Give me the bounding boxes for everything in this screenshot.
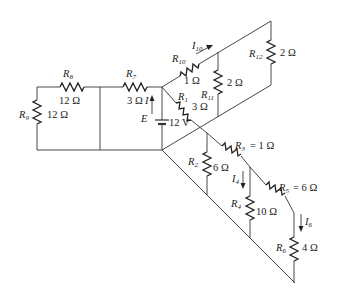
- label-r2-name: R2: [187, 156, 198, 169]
- label-source-value: 12 V: [169, 117, 190, 128]
- label-current-i: I: [144, 95, 149, 106]
- label-r8-name: R8: [62, 68, 73, 81]
- label-i4: I4: [231, 173, 240, 186]
- label-r12-value: 2 Ω: [280, 47, 296, 58]
- upper-right-network: [162, 21, 275, 150]
- label-r5-value: = 6 Ω: [293, 182, 317, 193]
- resistor-r11: [214, 70, 222, 94]
- label-r9-value: 12 Ω: [47, 109, 68, 120]
- label-r7-name: R7: [125, 68, 136, 81]
- resistor-r12: [267, 40, 275, 64]
- label-r1-value: 3 Ω: [192, 101, 208, 112]
- label-i10: I10: [191, 40, 203, 53]
- resistor-r8: [60, 83, 84, 91]
- resistor-r6: [290, 237, 298, 261]
- labels: R8 12 Ω R9 12 Ω R7 3 Ω I E 12 V R10 1 Ω …: [18, 40, 318, 255]
- label-r8-value: 12 Ω: [59, 95, 80, 106]
- resistor-r9: [33, 100, 41, 124]
- label-r5-name: R5: [278, 182, 289, 195]
- label-r6-value: 4 Ω: [302, 242, 318, 253]
- label-r4-value: 10 Ω: [256, 206, 277, 217]
- label-r2-value: 6 Ω: [213, 162, 229, 173]
- label-r11-value: 2 Ω: [227, 77, 243, 88]
- label-r10-value: 1 Ω: [184, 75, 200, 86]
- label-r3-value: = 1 Ω: [250, 140, 274, 151]
- label-r7-value: 3 Ω: [127, 95, 143, 106]
- resistor-r7: [123, 83, 147, 91]
- label-r6-name: R6: [275, 242, 286, 255]
- circuit-diagram: R8 12 Ω R9 12 Ω R7 3 Ω I E 12 V R10 1 Ω …: [0, 0, 341, 290]
- label-r9-name: R9: [18, 109, 29, 122]
- label-r4-name: R4: [230, 198, 241, 211]
- label-r10-name: R10: [171, 53, 186, 66]
- label-i6: I6: [304, 216, 313, 229]
- battery-source: [150, 87, 170, 150]
- label-r12-name: R12: [248, 48, 263, 61]
- resistor-r2: [203, 152, 211, 176]
- label-source-e: E: [140, 113, 148, 124]
- label-r3-name: R3: [234, 140, 245, 153]
- resistor-r4: [246, 196, 254, 220]
